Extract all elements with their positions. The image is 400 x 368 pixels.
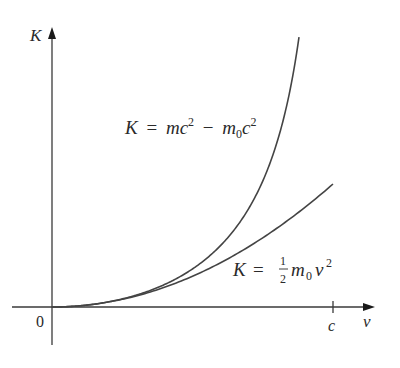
svg-text:K = mc2 −: K = mc2 − m0c2 bbox=[124, 109, 256, 141]
x-axis-arrow-icon bbox=[363, 303, 375, 311]
classical-curve bbox=[52, 184, 333, 307]
svg-text:2: 2 bbox=[326, 256, 332, 270]
y-axis-label: K bbox=[29, 26, 43, 45]
svg-text:=: = bbox=[253, 259, 264, 280]
svg-text:2: 2 bbox=[280, 272, 286, 286]
svg-text:0: 0 bbox=[306, 269, 312, 283]
classical-annotation: K = 1 2 m 0 v 2 bbox=[232, 254, 332, 286]
axes bbox=[12, 36, 366, 345]
origin-label: 0 bbox=[36, 313, 44, 330]
c-tick-label: c bbox=[328, 317, 335, 334]
svg-text:1: 1 bbox=[280, 254, 286, 268]
svg-text:m: m bbox=[291, 259, 305, 280]
kinetic-energy-chart: K v 0 c K = mc2 − m0c2 K = 1 2 m 0 v 2 bbox=[0, 0, 400, 368]
svg-text:K: K bbox=[232, 259, 247, 280]
x-axis-label: v bbox=[363, 312, 371, 331]
relativistic-annotation: K = mc2 − m0c2 bbox=[124, 109, 256, 141]
y-axis-arrow-icon bbox=[48, 27, 56, 39]
svg-text:v: v bbox=[315, 259, 324, 280]
